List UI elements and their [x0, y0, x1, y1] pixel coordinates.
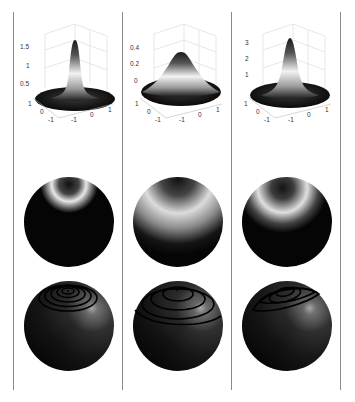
- pole-marker: [176, 289, 178, 291]
- pole-marker: [67, 290, 69, 292]
- ztick-3: 1: [245, 71, 249, 78]
- xtick-1: -1: [288, 116, 294, 123]
- ytick-3: -1: [264, 116, 270, 123]
- xtick-1: -1: [71, 116, 77, 123]
- xtick-3: 1: [108, 106, 112, 113]
- ytick-1: 1: [28, 100, 32, 107]
- ztick-1: 0.4: [130, 44, 139, 51]
- ytick-1: 1: [244, 100, 248, 107]
- ztick-1: 3: [245, 39, 249, 46]
- divider-1: [122, 12, 123, 390]
- ztick-1: 1.5: [20, 43, 29, 50]
- contour-sphere-3: [241, 280, 333, 372]
- divider-right: [340, 12, 341, 390]
- contour-sphere-1: [23, 280, 115, 372]
- ztick-2: 2: [245, 55, 249, 62]
- ytick-3: -1: [155, 116, 161, 123]
- ytick-3: -1: [48, 116, 54, 123]
- density-sphere-1: [23, 176, 115, 268]
- ztick-2: 0.2: [130, 60, 139, 67]
- ztick-2: 1: [26, 62, 30, 69]
- surface-plot-1: 1.5 1 0.5 1 0 -1 -1 0 1: [15, 12, 121, 124]
- xtick-2: 0: [90, 111, 94, 118]
- xtick-3: 1: [325, 106, 329, 113]
- surface-plot-3: 3 2 1 1 0 -1 -1 0 1: [233, 12, 339, 124]
- density-sphere-3: [241, 176, 333, 268]
- xtick-1: -1: [179, 116, 185, 123]
- ytick-1: 1: [135, 100, 139, 107]
- density-sphere-2: [132, 176, 224, 268]
- ytick-2: 0: [147, 108, 151, 115]
- xtick-2: 0: [307, 111, 311, 118]
- ytick-2: 0: [40, 108, 44, 115]
- divider-left: [13, 12, 14, 390]
- surface-peak: [142, 52, 220, 97]
- ytick-2: 0: [256, 108, 260, 115]
- xtick-2: 0: [198, 111, 202, 118]
- surface-plot-2: 0.4 0.2 0 1 0 -1 -1 0 1: [124, 12, 230, 124]
- ztick-3: 0: [134, 77, 138, 84]
- contour-sphere-2: [132, 280, 224, 372]
- xtick-3: 1: [216, 106, 220, 113]
- divider-2: [231, 12, 232, 390]
- ztick-3: 0.5: [20, 80, 29, 87]
- pole-marker: [284, 289, 286, 291]
